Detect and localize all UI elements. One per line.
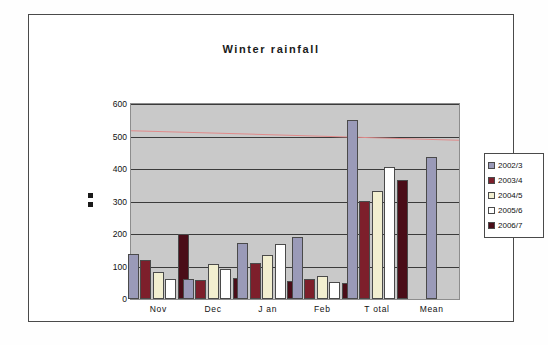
plot-inner xyxy=(131,104,459,299)
bar xyxy=(153,272,164,299)
y-tick-label: 0 xyxy=(97,294,127,304)
x-axis-labels: NovDecJ anFebT otalMean xyxy=(130,304,460,318)
selection-marks xyxy=(88,193,94,211)
gridline xyxy=(131,137,459,138)
chart-title: Winter rainfall xyxy=(29,43,513,55)
gridline xyxy=(131,202,459,203)
y-tick-label: 300 xyxy=(97,197,127,207)
y-axis-labels: 0100200300400500600 xyxy=(97,95,127,308)
y-tick-label: 500 xyxy=(97,132,127,142)
legend-item: 2005/6 xyxy=(488,203,540,218)
x-tick-label: Feb xyxy=(314,304,331,314)
y-tick-label: 400 xyxy=(97,164,127,174)
bar xyxy=(140,260,151,299)
trendline xyxy=(131,130,459,141)
x-tick-label: Mean xyxy=(420,304,444,314)
bar xyxy=(183,279,194,299)
legend-label: 2005/6 xyxy=(498,206,522,215)
legend-item: 2004/5 xyxy=(488,188,540,203)
chart-legend: 2002/32003/42004/52005/62006/7 xyxy=(484,153,544,238)
bar xyxy=(165,279,176,299)
x-tick-label: Nov xyxy=(150,304,167,314)
bar xyxy=(275,244,286,299)
bar xyxy=(208,264,219,299)
bar xyxy=(426,157,437,299)
selection-mark-lower xyxy=(88,202,93,207)
y-tick-label: 600 xyxy=(97,99,127,109)
legend-swatch-icon xyxy=(488,207,495,214)
legend-item: 2006/7 xyxy=(488,218,540,233)
bar xyxy=(220,269,231,299)
legend-item: 2003/4 xyxy=(488,173,540,188)
y-tick-label: 200 xyxy=(97,229,127,239)
x-tick-label: Dec xyxy=(204,304,221,314)
figure-frame: Winter rainfall 0100200300400500600 NovD… xyxy=(28,14,514,322)
legend-label: 2006/7 xyxy=(498,221,522,230)
bar xyxy=(128,254,139,300)
x-tick-label: J an xyxy=(258,304,277,314)
legend-swatch-icon xyxy=(488,177,495,184)
bar xyxy=(195,280,206,299)
legend-swatch-icon xyxy=(488,162,495,169)
legend-item: 2002/3 xyxy=(488,158,540,173)
bar xyxy=(347,120,358,299)
bar xyxy=(292,237,303,299)
legend-label: 2003/4 xyxy=(498,176,522,185)
bar xyxy=(397,180,408,299)
gridline xyxy=(131,104,459,105)
bar xyxy=(262,255,273,299)
plot-area xyxy=(130,103,460,300)
gridline xyxy=(131,169,459,170)
legend-swatch-icon xyxy=(488,192,495,199)
bar xyxy=(359,201,370,299)
x-tick-label: T otal xyxy=(364,304,389,314)
bar xyxy=(250,263,261,299)
bar xyxy=(372,191,383,299)
bar xyxy=(237,243,248,299)
selection-mark-upper xyxy=(88,193,93,198)
legend-swatch-icon xyxy=(488,222,495,229)
bar xyxy=(384,167,395,299)
legend-label: 2004/5 xyxy=(498,191,522,200)
figure-root: Winter rainfall 0100200300400500600 NovD… xyxy=(0,0,548,345)
bar xyxy=(329,282,340,299)
y-tick-label: 100 xyxy=(97,262,127,272)
bar xyxy=(317,276,328,299)
bar xyxy=(304,279,315,299)
legend-label: 2002/3 xyxy=(498,161,522,170)
